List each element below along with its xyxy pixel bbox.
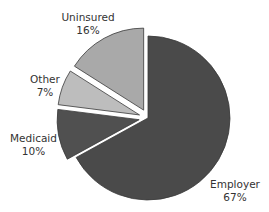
label-uninsured-pct: 16% (60, 24, 116, 37)
label-employer-pct: 67% (206, 191, 264, 204)
label-employer-name: Employer (206, 178, 264, 191)
label-medicaid-name: Medicaid (6, 132, 61, 145)
label-other-pct: 7% (25, 86, 65, 99)
label-employer: Employer 67% (206, 178, 264, 204)
label-uninsured-name: Uninsured (60, 11, 116, 24)
label-other: Other 7% (25, 73, 65, 99)
label-uninsured: Uninsured 16% (60, 11, 116, 37)
label-medicaid-pct: 10% (6, 145, 61, 158)
label-medicaid: Medicaid 10% (6, 132, 61, 158)
label-other-name: Other (25, 73, 65, 86)
